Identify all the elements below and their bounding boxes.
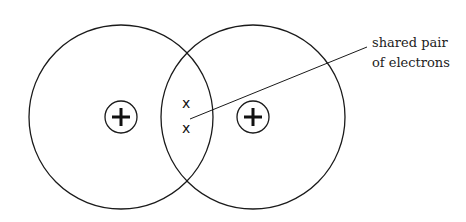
label-line-2: of electrons xyxy=(372,53,450,73)
label-line-1: shared pair xyxy=(372,33,450,53)
left-nucleus-icon xyxy=(105,101,137,133)
electron-mark-bottom: x xyxy=(182,121,190,135)
leader-line xyxy=(190,47,367,119)
right-nucleus-icon xyxy=(237,101,269,133)
electron-mark-top: x xyxy=(182,96,190,110)
shared-pair-label: shared pair of electrons xyxy=(372,33,450,73)
